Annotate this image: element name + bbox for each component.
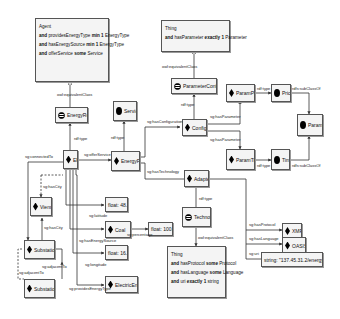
expr-card: min 1 — [92, 33, 104, 38]
expr-keyword: and — [165, 35, 173, 40]
node-label: Coal — [115, 227, 125, 233]
individual-icon — [285, 242, 290, 250]
expr-type: EnergyType — [100, 42, 125, 47]
expr-line: Thing — [165, 26, 177, 31]
node-adapter1[interactable]: Adapter1 — [184, 170, 209, 187]
node-label: EnergyRetailer — [67, 112, 88, 118]
node-label: Substation1 — [34, 247, 55, 253]
edge-label: rdfs:subClassOf — [292, 163, 320, 168]
class-icon — [274, 156, 280, 164]
expr-prop: hasParameter — [174, 35, 203, 40]
edge-label: sg:hasTechnology — [147, 169, 179, 174]
expr-card: min 1 — [86, 42, 98, 47]
edge-label: sg:hasProtocol — [249, 222, 275, 227]
individual-icon — [229, 156, 234, 164]
individual-icon — [66, 156, 71, 164]
expr-keyword: and — [171, 279, 179, 284]
node-substation1[interactable]: Substation1 — [24, 240, 55, 259]
node-er1[interactable]: ER1 — [63, 150, 78, 169]
node-label: Price — [282, 90, 291, 96]
individual-icon — [27, 246, 32, 254]
node-substation2[interactable]: Substation2 — [24, 279, 55, 298]
node-config1[interactable]: Config1 — [182, 119, 207, 136]
individual-icon — [187, 175, 192, 183]
node-vienna[interactable]: Vienna — [30, 197, 52, 216]
edge-label: sg:uri — [249, 251, 259, 256]
ontology-diagram: Agent and providesEnergyType min 1 Energ… — [0, 0, 340, 319]
node-energy-price[interactable]: EnergyPrice — [111, 151, 140, 171]
node-parameter-configuration[interactable]: ParameterConfiguration — [171, 78, 217, 94]
expr-prop: uri — [180, 279, 185, 284]
individual-icon — [185, 124, 190, 132]
edge-label: rdf:type — [257, 163, 270, 168]
node-float-latitude[interactable]: float: 48.20 — [105, 197, 128, 212]
edge-label: sg:hasParameter — [210, 137, 240, 142]
node-label: XMPP — [292, 228, 302, 234]
node-label: ParamTime — [236, 157, 255, 163]
node-label: Adapter1 — [194, 176, 209, 182]
node-technology[interactable]: Technology — [182, 207, 211, 227]
expr-keyword: and — [39, 33, 47, 38]
edge-label: sg:hasEnergySource — [79, 238, 116, 243]
class-icon — [174, 83, 181, 90]
thing-technology-expression: Thing and hasProtocol some Protocol and … — [167, 246, 226, 298]
node-label: ER1 — [73, 157, 78, 163]
edge-label: sg:hasLanguage — [249, 236, 279, 241]
edge-label: owl:equivalentClass — [57, 92, 92, 97]
node-label: EnergyPrice — [121, 158, 140, 164]
edge-label: sg:hasCity — [43, 184, 62, 189]
node-float-longitude[interactable]: float: 16.37 — [105, 245, 128, 260]
thing-parameter-expression: Thing and hasParameter exactly 1 Paramet… — [161, 20, 230, 52]
node-label: ParamPrice — [236, 90, 255, 96]
edge-label: sg:hasConfiguration — [147, 119, 183, 124]
expr-keyword: and — [39, 42, 47, 47]
node-label: ParameterConfiguration — [183, 83, 217, 89]
node-label: float: 16.37 — [108, 250, 128, 256]
class-icon — [116, 107, 122, 115]
edge-label: sg:offerService — [84, 152, 111, 157]
class-icon — [58, 112, 65, 119]
expr-line: Agent — [39, 24, 51, 29]
node-price[interactable]: Price — [271, 84, 291, 102]
node-label: Technology — [194, 214, 211, 220]
edge-label: sg:longitude — [85, 262, 107, 267]
class-icon — [300, 121, 306, 129]
node-param-time[interactable]: ParamTime — [226, 149, 255, 170]
edge-label: rdf:type — [111, 135, 124, 140]
node-label: Substation2 — [34, 286, 55, 292]
expr-type: Language — [223, 270, 243, 275]
expr-card: some — [206, 261, 218, 266]
edge-label: sg:adjacentTo — [42, 264, 67, 269]
expr-type: EnergyType — [105, 33, 130, 38]
edge-label: rdf:type — [74, 136, 87, 141]
node-label: Config1 — [192, 125, 207, 131]
edge-label: rdf:type — [257, 86, 270, 91]
agent-expression: Agent and providesEnergyType min 1 Energ… — [35, 18, 109, 82]
expr-keyword: and — [39, 51, 47, 56]
node-label: Time — [282, 157, 290, 163]
expr-type: string — [208, 279, 219, 284]
node-label: Vienna — [40, 204, 52, 210]
node-parameter[interactable]: Parameter — [297, 114, 323, 136]
edge-label: sg:percentage — [127, 232, 152, 237]
expr-line: Thing — [171, 252, 183, 257]
individual-icon — [27, 285, 32, 293]
edge-label: sg:latitude — [89, 213, 107, 218]
edge-label: rdf:type — [199, 196, 212, 201]
expr-type: Parameter — [225, 35, 246, 40]
individual-icon — [114, 157, 119, 165]
expr-keyword: and — [171, 261, 179, 266]
node-time[interactable]: Time — [271, 149, 290, 170]
node-label: OASIS EI — [292, 243, 306, 249]
edge-label: sg:hasCity — [44, 225, 63, 230]
node-label: float: 48.20 — [108, 202, 128, 208]
expr-prop: offerService — [48, 51, 72, 56]
node-param-price[interactable]: ParamPrice — [226, 84, 255, 102]
edge-label: sg:providesEnergyType — [69, 286, 111, 291]
expr-card: some — [210, 270, 222, 275]
node-service[interactable]: Service — [113, 101, 137, 121]
node-uri-string[interactable]: string: "137.45.31.2/energyPrice/" — [261, 252, 323, 267]
expr-type: Service — [87, 51, 102, 56]
node-energy-retailer[interactable]: EnergyRetailer — [55, 107, 88, 123]
class-icon — [274, 89, 280, 97]
